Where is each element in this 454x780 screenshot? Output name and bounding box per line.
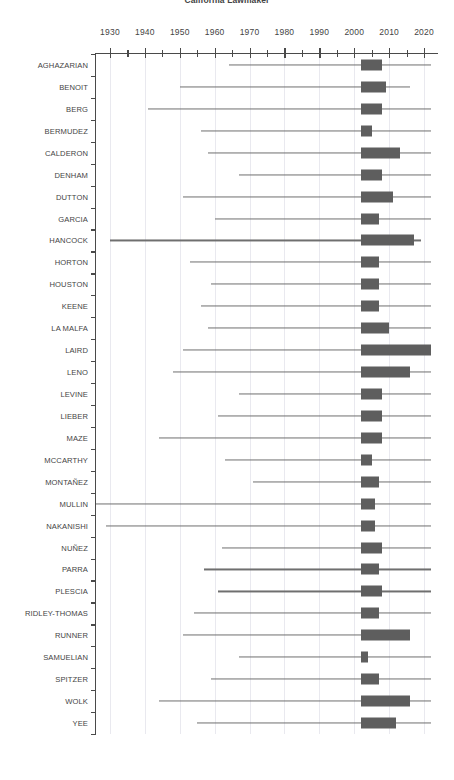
- y-tick-label-samuelian: SAMUELIAN: [0, 653, 88, 662]
- bar-parra: [361, 564, 378, 575]
- y-tick-mccarthy: [91, 449, 96, 450]
- y-tick-label-nakanishi: NAKANISHI: [0, 521, 88, 530]
- x-tick-label-2010: 2010: [379, 27, 399, 37]
- whisker-horton: [190, 262, 431, 263]
- y-tick-label-ridley-thomas: RIDLEY-THOMAS: [0, 609, 88, 618]
- y-tick-levine: [91, 383, 96, 384]
- bar-aghazarian: [361, 59, 382, 70]
- y-tick-berg: [91, 98, 96, 99]
- bar-wolk: [361, 696, 410, 707]
- x-tick-1980: [284, 48, 285, 58]
- whisker-plescia: [218, 591, 431, 592]
- bar-dutton: [361, 191, 392, 202]
- whisker-berg: [148, 108, 431, 109]
- bar-denham: [361, 169, 382, 180]
- bar-monta-ez: [361, 476, 378, 487]
- y-tick-laird: [91, 339, 96, 340]
- y-tick-houston: [91, 273, 96, 274]
- x-tick-2020: [424, 48, 425, 58]
- y-tick-dutton: [91, 186, 96, 187]
- y-tick-label-mullin: MULLIN: [0, 499, 88, 508]
- y-tick-label-hancock: HANCOCK: [0, 236, 88, 245]
- x-minor-tick-1945: [162, 50, 163, 57]
- y-tick-calderon: [91, 142, 96, 143]
- y-tick-label-plescia: PLESCIA: [0, 587, 88, 596]
- y-tick-label-calderon: CALDERON: [0, 148, 88, 157]
- x-tick-1950: [180, 48, 181, 58]
- whisker-mccarthy: [225, 459, 431, 460]
- y-tick-label-leno: LENO: [0, 368, 88, 377]
- y-tick-ridley-thomas: [91, 602, 96, 603]
- whisker-ridley-thomas: [194, 613, 431, 614]
- x-tick-label-1930: 1930: [100, 27, 120, 37]
- whisker-maze: [159, 437, 431, 438]
- gridline-1940: [145, 54, 146, 734]
- x-tick-label-1970: 1970: [240, 27, 260, 37]
- whisker-parra: [204, 569, 431, 570]
- bar-calderon: [361, 147, 399, 158]
- whisker-la-malfa: [208, 328, 431, 329]
- whisker-denham: [239, 174, 431, 175]
- y-tick-label-runner: RUNNER: [0, 631, 88, 640]
- x-tick-1930: [110, 48, 111, 58]
- whisker-lieber: [218, 415, 431, 416]
- whisker-bermudez: [201, 130, 431, 131]
- bar-garcia: [361, 213, 378, 224]
- bar-horton: [361, 257, 378, 268]
- bar-nu-ez: [361, 542, 382, 553]
- y-tick-label-lieber: LIEBER: [0, 411, 88, 420]
- bar-runner: [361, 630, 410, 641]
- y-tick-aghazarian: [91, 54, 96, 55]
- x-minor-tick-1935: [127, 50, 128, 57]
- x-tick-label-1950: 1950: [170, 27, 190, 37]
- y-tick-horton: [91, 251, 96, 252]
- y-tick-denham: [91, 164, 96, 165]
- x-tick-label-2020: 2020: [414, 27, 434, 37]
- bar-mullin: [361, 498, 375, 509]
- bar-nakanishi: [361, 520, 375, 531]
- y-tick-label-aghazarian: AGHAZARIAN: [0, 60, 88, 69]
- y-tick-end: [91, 734, 96, 735]
- whisker-monta-ez: [253, 481, 431, 482]
- y-tick-plescia: [91, 580, 96, 581]
- bar-houston: [361, 279, 378, 290]
- y-tick-bermudez: [91, 120, 96, 121]
- bar-levine: [361, 389, 382, 400]
- whisker-dutton: [183, 196, 431, 197]
- x-minor-tick-1955: [197, 50, 198, 57]
- bar-spitzer: [361, 674, 378, 685]
- y-tick-label-maze: MAZE: [0, 433, 88, 442]
- bar-lieber: [361, 410, 382, 421]
- whisker-spitzer: [211, 679, 431, 680]
- bar-yee: [361, 718, 396, 729]
- y-tick-samuelian: [91, 646, 96, 647]
- x-tick-2000: [354, 48, 355, 58]
- gridline-1930: [110, 54, 111, 734]
- x-tick-label-2000: 2000: [344, 27, 364, 37]
- y-tick-nakanishi: [91, 515, 96, 516]
- x-minor-tick-2015: [407, 50, 408, 57]
- y-tick-label-dutton: DUTTON: [0, 192, 88, 201]
- bar-bermudez: [361, 125, 371, 136]
- y-tick-maze: [91, 427, 96, 428]
- y-tick-label-wolk: WOLK: [0, 697, 88, 706]
- y-tick-lieber: [91, 405, 96, 406]
- y-tick-label-nu-ez: NUÑEZ: [0, 543, 88, 552]
- y-tick-label-laird: LAIRD: [0, 346, 88, 355]
- chart-title: California Lawmaker: [0, 0, 454, 5]
- y-tick-wolk: [91, 690, 96, 691]
- gridline-1960: [215, 54, 216, 734]
- bar-benoit: [361, 81, 385, 92]
- y-tick-label-denham: DENHAM: [0, 170, 88, 179]
- bar-la-malfa: [361, 323, 389, 334]
- y-tick-nu-ez: [91, 537, 96, 538]
- y-tick-hancock: [91, 229, 96, 230]
- y-tick-label-berg: BERG: [0, 104, 88, 113]
- gridline-1950: [180, 54, 181, 734]
- whisker-aghazarian: [229, 64, 431, 65]
- bar-hancock: [361, 235, 413, 246]
- y-tick-yee: [91, 712, 96, 713]
- whisker-keene: [201, 306, 431, 307]
- y-tick-runner: [91, 624, 96, 625]
- whisker-levine: [239, 393, 431, 394]
